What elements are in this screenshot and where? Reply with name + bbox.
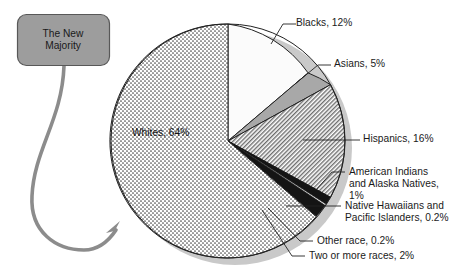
- slice-label-asians: Asians, 5%: [334, 58, 385, 70]
- slice-label-native-hawaiians: Native Hawaiians and Pacific Islanders, …: [345, 200, 449, 224]
- slice-label-two-or-more-races: Two or more races, 2%: [309, 250, 414, 262]
- slice-label-blacks: Blacks, 12%: [296, 17, 352, 29]
- callout-arrow: [32, 66, 116, 250]
- slice-label-other-race: Other race, 0.2%: [317, 235, 394, 247]
- slice-label-whites: Whites, 64%: [132, 127, 189, 138]
- callout-label: The New Majority: [17, 28, 109, 53]
- pie-chart-figure: The New Majority Whites, 64% Blacks, 12%…: [0, 0, 470, 278]
- slice-label-hispanics: Hispanics, 16%: [363, 133, 434, 145]
- slice-label-american-indians: American Indians and Alaska Natives, 1%: [349, 166, 439, 201]
